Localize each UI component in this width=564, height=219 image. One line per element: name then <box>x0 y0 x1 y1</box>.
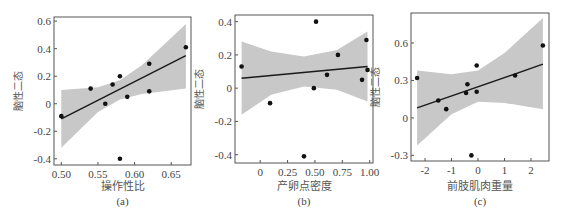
data-point <box>184 45 189 50</box>
chart-panel-b: 00.250.500.751.00-0.4-0.200.20.4产卵点密度(b)… <box>193 15 380 208</box>
y-tick-label: -0.2 <box>34 125 51 137</box>
x-tick-label: 0.65 <box>162 168 182 180</box>
y-tick-label: 0 <box>403 112 409 124</box>
data-point <box>513 73 518 78</box>
y-tick-label: 0 <box>227 82 233 94</box>
data-point <box>465 82 470 87</box>
data-point <box>325 73 330 78</box>
y-tick-label: 0.6 <box>394 37 408 49</box>
data-point <box>464 91 469 96</box>
data-point <box>125 95 130 100</box>
data-point <box>469 153 474 158</box>
y-tick-label: 0.2 <box>218 49 232 61</box>
data-point <box>364 38 369 43</box>
data-point <box>436 98 441 103</box>
data-point <box>118 74 123 79</box>
panel-label: (a) <box>116 195 129 208</box>
data-point <box>415 76 420 81</box>
x-tick-label: 0.55 <box>88 168 108 180</box>
y-tick-label: 0.3 <box>394 74 408 86</box>
data-point <box>110 82 115 87</box>
x-tick-label: 0.50 <box>305 166 325 178</box>
confidence-band <box>417 18 543 145</box>
x-tick-label: 0 <box>257 166 263 178</box>
y-tick-label: -0.3 <box>391 149 409 161</box>
y-tick-label: 0.6 <box>37 15 51 27</box>
x-axis-title: 产卵点密度 <box>277 179 332 193</box>
y-tick-label: -0.4 <box>215 149 233 161</box>
data-point <box>444 107 449 112</box>
x-tick-label: 0.25 <box>278 166 298 178</box>
panel-label: (b) <box>298 195 311 208</box>
x-tick-label: -2 <box>420 164 429 176</box>
x-tick-label: 2 <box>528 164 534 176</box>
data-point <box>268 101 273 106</box>
x-tick-label: 1 <box>502 164 508 176</box>
chart-panel-a: 0.500.550.600.65-0.4-0.200.20.40.6操作性比(a… <box>12 15 191 208</box>
data-point <box>541 43 546 48</box>
x-tick-label: 0.50 <box>52 168 72 180</box>
data-point <box>59 114 64 119</box>
y-tick-label: 0 <box>46 98 52 110</box>
x-tick-label: -1 <box>447 164 456 176</box>
data-point <box>474 89 479 94</box>
y-tick-label: -0.2 <box>215 115 232 127</box>
figure-three-panel-scatter: 0.500.550.600.65-0.4-0.200.20.40.6操作性比(a… <box>0 0 564 219</box>
y-tick-label: 0.2 <box>37 70 51 82</box>
x-axis-title: 操作性比 <box>101 179 145 193</box>
y-axis-title: 脑性二态 <box>12 71 24 111</box>
data-point <box>103 101 108 106</box>
data-point <box>312 86 317 91</box>
y-axis-title: 脑性二态 <box>369 67 381 107</box>
x-tick-label: 1.00 <box>360 166 380 178</box>
confidence-band <box>242 32 368 115</box>
panel-label: (c) <box>474 195 487 208</box>
y-tick-label: 0.4 <box>37 43 51 55</box>
x-tick-label: 0.60 <box>125 168 145 180</box>
y-tick-label: 0.4 <box>218 16 232 28</box>
x-tick-label: 0.75 <box>333 166 353 178</box>
data-point <box>88 86 93 91</box>
figure-canvas: 0.500.550.600.65-0.4-0.200.20.40.6操作性比(a… <box>0 0 564 219</box>
data-point <box>147 89 152 94</box>
data-point <box>336 53 341 58</box>
x-tick-label: 0 <box>475 164 481 176</box>
data-point <box>118 157 123 162</box>
data-point <box>302 154 307 159</box>
y-axis-title: 脑性二态 <box>193 69 205 109</box>
confidence-band <box>61 24 186 148</box>
data-point <box>314 19 319 24</box>
chart-panel-c: -2-1012-0.300.30.6前肢肌肉重量(c)脑性二态 <box>369 13 549 208</box>
data-point <box>474 63 479 68</box>
data-point <box>360 78 365 83</box>
data-point <box>147 62 152 67</box>
x-axis-title: 前肢肌肉重量 <box>447 179 513 193</box>
y-tick-label: -0.4 <box>34 153 52 165</box>
data-point <box>239 64 244 69</box>
